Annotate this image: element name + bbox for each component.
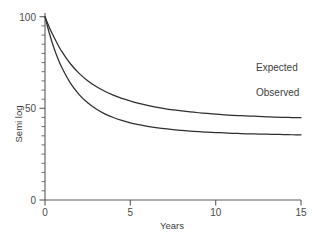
- semi-log-decay-chart: 100 50 0 0 5 10 15 Years Semi log Expect…: [0, 0, 319, 238]
- x-tick-label-0: 0: [42, 207, 48, 218]
- y-tick-label-0: 0: [30, 195, 36, 206]
- x-tick-label-5: 5: [128, 207, 134, 218]
- x-tick-label-10: 10: [210, 207, 222, 218]
- series-label-expected: Expected: [256, 62, 298, 73]
- series-label-observed: Observed: [256, 87, 299, 98]
- y-axis-title: Semi log: [13, 106, 24, 143]
- y-tick-label-50: 50: [25, 103, 37, 114]
- x-tick-label-15: 15: [295, 207, 307, 218]
- chart-canvas: 100 50 0 0 5 10 15 Years Semi log Expect…: [0, 0, 319, 238]
- x-axis-title: Years: [160, 220, 184, 231]
- y-tick-label-100: 100: [19, 12, 36, 23]
